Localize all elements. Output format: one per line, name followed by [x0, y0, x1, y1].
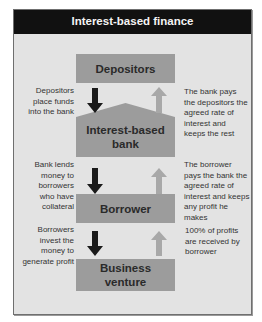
node-depositors: Depositors [76, 54, 175, 83]
down-arrow-icon [87, 168, 103, 194]
down-arrow-icon [87, 231, 103, 256]
node-bank-label-wrap: Interest-based bank [76, 117, 175, 157]
diagram-frame: Interest-based finance Depositors Intere… [13, 9, 252, 315]
up-arrow-icon [151, 87, 167, 113]
node-business-venture-label: Business venture [91, 261, 161, 289]
node-borrower: Borrower [76, 194, 175, 223]
up-arrow-icon [151, 168, 167, 194]
label-bank-pays-depositors: The bank pays the depositors the agreed … [184, 87, 248, 140]
label-bank-lends-money: Bank lends money to borrowers who have c… [22, 160, 74, 213]
node-depositors-label: Depositors [95, 62, 155, 76]
node-bank-label: Interest-based bank [86, 123, 166, 151]
label-borrower-pays-bank: The borrower pays the bank the agreed ra… [184, 160, 250, 223]
label-borrowers-invest: Borrowers invest the money to generate p… [15, 225, 74, 267]
node-business-venture: Business venture [76, 259, 175, 291]
diagram-title: Interest-based finance [14, 10, 251, 34]
node-borrower-label: Borrower [100, 202, 151, 216]
up-arrow-icon [151, 231, 167, 256]
label-profits-received: 100% of profits are received by borrower [185, 226, 243, 258]
label-depositors-place-funds: Depositors place funds into the bank [22, 86, 74, 118]
down-arrow-icon [87, 88, 103, 113]
